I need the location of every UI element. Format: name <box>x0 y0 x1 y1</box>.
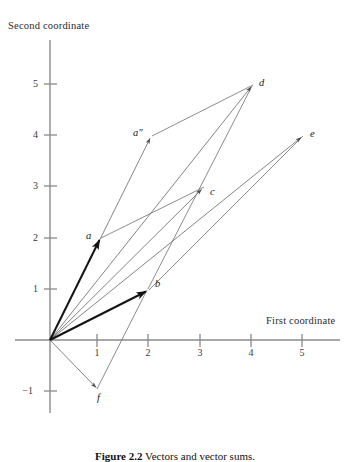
vector-figure: Second coordinate First coordinate 5 4 3… <box>0 0 350 462</box>
x-tick-label-2: 2 <box>142 347 154 358</box>
x-tick-label-5: 5 <box>296 347 308 358</box>
point-label-f: f <box>97 392 100 403</box>
y-tick-label-3: 3 <box>22 180 38 191</box>
vector-f <box>50 340 96 388</box>
vector-b <box>50 292 146 341</box>
axes-group <box>15 40 340 413</box>
x-tick-label-1: 1 <box>91 347 103 358</box>
segment-b-to-d <box>148 86 252 289</box>
vector-plot-canvas <box>0 0 350 462</box>
y-axis-title: Second coordinate <box>8 20 89 31</box>
point-label-a-double-prime: a″ <box>133 127 143 138</box>
y-tick-label-4: 4 <box>22 129 38 140</box>
x-tick-label-3: 3 <box>194 347 206 358</box>
segment-aprime-to-d <box>152 85 253 136</box>
point-label-b: b <box>155 278 160 289</box>
y-tick-label-1: 1 <box>22 283 38 294</box>
figure-caption-number: Figure 2.2 <box>95 450 142 462</box>
point-label-a: a <box>86 230 91 241</box>
figure-caption: Figure 2.2 Vectors and vector sums. <box>0 450 350 462</box>
y-tick-label-neg1: −1 <box>17 385 33 396</box>
segment-a-to-c <box>101 187 204 238</box>
x-axis-title: First coordinate <box>266 315 335 326</box>
y-tick-label-2: 2 <box>22 232 38 243</box>
point-label-c: c <box>210 186 215 197</box>
point-label-d: d <box>259 77 264 88</box>
vector-c <box>50 190 202 341</box>
segment-b-to-e <box>149 136 303 290</box>
y-tick-label-5: 5 <box>22 78 38 89</box>
tick-marks <box>44 84 302 391</box>
vector-d <box>50 87 251 340</box>
vector-a <box>50 240 100 340</box>
figure-caption-text: Vectors and vector sums. <box>145 450 255 462</box>
point-label-e: e <box>310 128 315 139</box>
x-tick-label-4: 4 <box>245 347 257 358</box>
bold-vectors-group <box>50 240 146 340</box>
